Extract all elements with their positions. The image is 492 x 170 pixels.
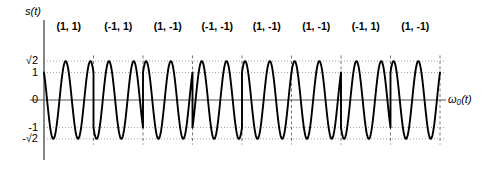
y-tick-label-1: 1 — [8, 67, 38, 78]
y-tick-label-2: 0 — [8, 94, 38, 105]
symbol-label-1: (-1, 1) — [90, 21, 146, 32]
signal-waveform-figure: QPSK modulated signal waveform s(t) s(t)… — [0, 0, 492, 170]
symbol-label-6: (-1, 1) — [338, 21, 394, 32]
y-tick-label-3: -1 — [8, 122, 38, 133]
symbol-label-2: (1, -1) — [140, 21, 196, 32]
y-tick-label-4: -√2 — [8, 133, 38, 144]
symbol-label-5: (1, -1) — [288, 21, 344, 32]
x-axis-label: ω₀(t) — [448, 94, 472, 105]
y-tick-label-0: √2 — [8, 55, 38, 66]
symbol-label-0: (1, 1) — [41, 21, 97, 32]
symbol-label-4: (1, -1) — [239, 21, 295, 32]
y-axis-label: s(t) — [25, 6, 41, 17]
symbol-label-7: (1, -1) — [387, 21, 443, 32]
symbol-label-3: (-1, -1) — [189, 21, 245, 32]
